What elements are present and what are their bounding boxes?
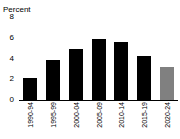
bar <box>46 60 60 100</box>
x-tick-label: 2020-24 <box>164 102 171 128</box>
y-tick-label: 6 <box>10 34 14 42</box>
bar <box>69 49 83 100</box>
bar <box>160 67 174 100</box>
x-tick-label: 1995-99 <box>50 102 57 128</box>
y-tick-label: 8 <box>10 13 14 21</box>
bar-chart: Percent 86420 1990-941995-992000-042005-… <box>0 0 180 139</box>
x-tick-label: 1990-94 <box>27 102 34 128</box>
bars-container <box>19 17 178 100</box>
y-tick-label: 0 <box>10 96 14 104</box>
x-axis-ticks: 1990-941995-992000-042005-092010-142015-… <box>19 101 178 139</box>
y-tick-label: 2 <box>10 75 14 83</box>
y-axis-ticks: 86420 <box>0 0 20 139</box>
x-tick-label: 2000-04 <box>73 102 80 128</box>
bar <box>23 78 37 100</box>
bar <box>92 39 106 100</box>
y-tick-label: 4 <box>10 55 14 63</box>
x-tick-label: 2010-14 <box>118 102 125 128</box>
bar <box>114 42 128 100</box>
x-tick-label: 2005-09 <box>96 102 103 128</box>
bar <box>137 56 151 100</box>
x-tick-label: 2015-19 <box>141 102 148 128</box>
